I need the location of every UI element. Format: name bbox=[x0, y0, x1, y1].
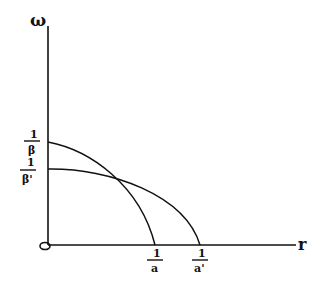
x-tick-1-over-a-prime: 1 a' bbox=[192, 247, 208, 275]
svg-text:β': β' bbox=[22, 173, 33, 186]
svg-text:1: 1 bbox=[153, 247, 161, 260]
svg-text:1: 1 bbox=[30, 128, 38, 141]
svg-text:a': a' bbox=[194, 262, 205, 275]
origin-marker bbox=[40, 243, 50, 250]
svg-text:1: 1 bbox=[27, 156, 35, 169]
svg-text:1: 1 bbox=[198, 247, 206, 260]
y-tick-1-over-beta: 1 β bbox=[24, 128, 40, 157]
svg-text:a: a bbox=[151, 262, 158, 275]
x-axis-label: r bbox=[298, 235, 307, 254]
y-axis-label: ω bbox=[30, 10, 46, 30]
x-tick-1-over-a: 1 a bbox=[147, 247, 163, 275]
y-tick-1-over-beta-prime: 1 β' bbox=[20, 156, 36, 186]
curve-betaprime-aprime bbox=[48, 169, 200, 245]
diagram-canvas: ω r 1 β 1 β' 1 a 1 a' bbox=[0, 0, 323, 285]
curve-beta-a bbox=[48, 142, 155, 245]
